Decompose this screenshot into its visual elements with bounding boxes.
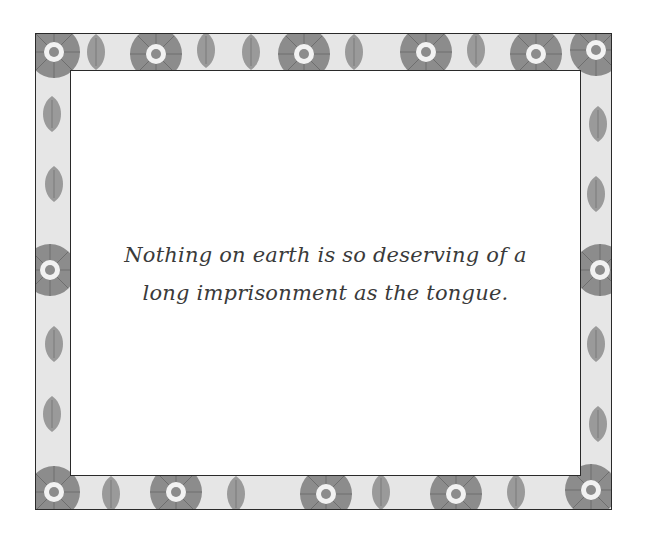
quote-line-2: long imprisonment as the tongue. <box>71 274 580 312</box>
quote-card: Nothing on earth is so deserving of a lo… <box>70 70 581 476</box>
quote-line-1: Nothing on earth is so deserving of a <box>71 236 580 274</box>
quote-text: Nothing on earth is so deserving of a lo… <box>71 236 580 312</box>
